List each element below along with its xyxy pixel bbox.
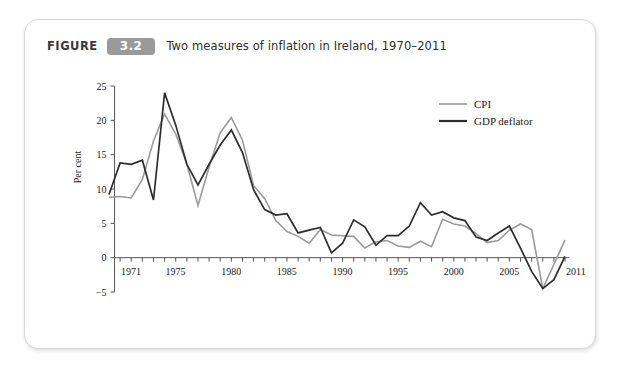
chart-plot-area: 2520151050−51971197519801985199019952000… (25, 20, 597, 350)
inflation-line-chart: 2520151050−51971197519801985199019952000… (25, 20, 597, 350)
x-tick-label: 2000 (444, 266, 464, 277)
y-tick-label: 5 (102, 218, 107, 229)
series-line-cpi (109, 114, 565, 288)
x-tick-label: 1971 (121, 266, 141, 277)
chart-legend: CPIGDP deflator (439, 98, 533, 127)
x-tick-label: 1990 (332, 266, 352, 277)
y-tick-label: 20 (97, 115, 107, 126)
y-tick-label: 10 (97, 184, 107, 195)
y-tick-label: 25 (97, 81, 107, 92)
legend-label-gdp-deflator: GDP deflator (474, 115, 533, 127)
figure-card: FIGURE 3.2 Two measures of inflation in … (24, 19, 596, 349)
x-tick-label: 1995 (388, 266, 408, 277)
chart-axes: 2520151050−51971197519801985199019952000… (72, 81, 586, 298)
y-tick-label: −5 (96, 287, 107, 298)
x-tick-label: 2005 (499, 266, 519, 277)
x-tick-label: 2011 (566, 266, 586, 277)
y-axis-title: Per cent (72, 151, 83, 184)
x-tick-label: 1980 (221, 266, 241, 277)
x-tick-label: 1975 (166, 266, 186, 277)
y-tick-label: 0 (102, 252, 107, 263)
x-tick-label: 1985 (277, 266, 297, 277)
legend-label-cpi: CPI (474, 98, 491, 110)
y-tick-label: 15 (97, 149, 107, 160)
